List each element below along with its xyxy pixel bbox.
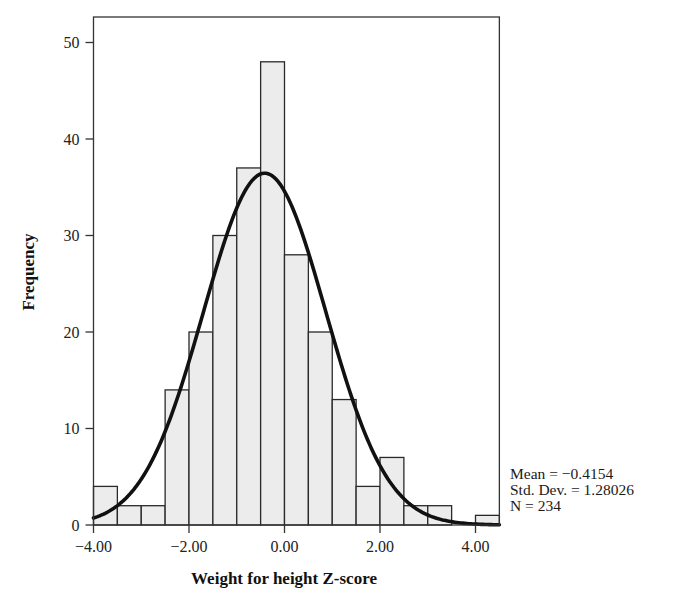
histogram-bar <box>261 62 285 525</box>
mean-label: Mean = −0.4154 <box>510 466 634 482</box>
y-tick-label: 10 <box>64 420 80 437</box>
y-tick-label: 0 <box>72 517 80 534</box>
x-tick-label: 4.00 <box>462 538 490 555</box>
y-axis: 01020304050 <box>64 34 94 534</box>
histogram-bar <box>308 332 332 525</box>
histogram-bar <box>285 255 309 525</box>
x-tick-label: −2.00 <box>170 538 207 555</box>
x-tick-label: 0.00 <box>271 538 299 555</box>
histogram-bar <box>189 332 213 525</box>
y-axis-title: Frequency <box>19 233 38 311</box>
stats-annotation: Mean = −0.4154 Std. Dev. = 1.28026 N = 2… <box>510 466 634 514</box>
x-tick-label: −4.00 <box>75 538 112 555</box>
histogram-bar <box>237 168 261 525</box>
x-tick-label: 2.00 <box>366 538 394 555</box>
n-label: N = 234 <box>510 498 634 514</box>
histogram-bar <box>332 400 356 525</box>
histogram-bar <box>356 486 380 525</box>
y-tick-label: 30 <box>64 227 80 244</box>
x-axis: −4.00−2.000.002.004.00 <box>75 525 490 555</box>
y-tick-label: 20 <box>64 324 80 341</box>
histogram-bar <box>380 457 404 525</box>
histogram-bar <box>213 236 237 526</box>
std-dev-label: Std. Dev. = 1.28026 <box>510 482 634 498</box>
histogram-bar <box>94 486 118 525</box>
x-axis-title: Weight for height Z-score <box>191 569 377 588</box>
y-tick-label: 40 <box>64 131 80 148</box>
histogram-bar <box>141 506 165 525</box>
y-tick-label: 50 <box>64 34 80 51</box>
histogram-bar <box>165 390 189 525</box>
histogram-bar <box>117 506 141 525</box>
